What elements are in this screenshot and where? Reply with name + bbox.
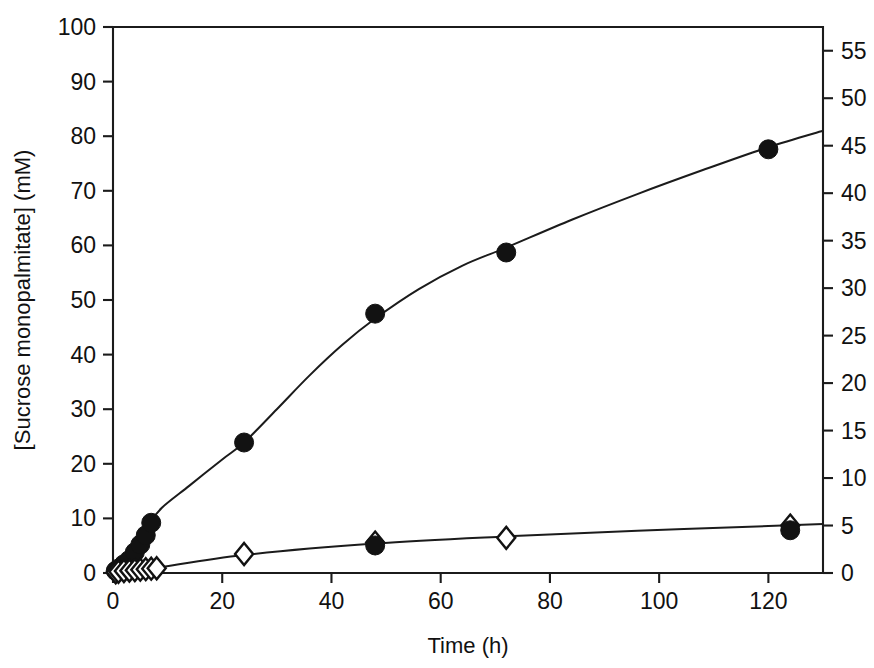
- x-axis-tick-label: 40: [319, 588, 345, 614]
- y-axis-tick-label-right: 45: [841, 133, 867, 159]
- y-axis-tick-label-left: 30: [70, 396, 96, 422]
- y-axis-tick-label-left: 100: [58, 14, 96, 40]
- y-axis-tick-label-right: 55: [841, 38, 867, 64]
- y-axis-tick-label-right: 50: [841, 85, 867, 111]
- y-axis-tick-label-right: 15: [841, 418, 867, 444]
- y-axis-tick-label-right: 30: [841, 275, 867, 301]
- data-point-filled-circle: [781, 521, 800, 540]
- x-axis-tick-label: 20: [209, 588, 235, 614]
- x-axis-title: Time (h): [427, 633, 508, 658]
- data-point-filled-circle: [235, 433, 254, 452]
- y-axis-title: [Sucrose monopalmitate] (mM): [10, 150, 35, 451]
- x-axis-tick-label: 120: [749, 588, 787, 614]
- scatter-chart: 0102030405060708090100051015202530354045…: [0, 0, 874, 668]
- y-axis-tick-label-left: 80: [70, 123, 96, 149]
- y-axis-tick-label-right: 25: [841, 323, 867, 349]
- data-point-filled-circle: [759, 140, 778, 159]
- y-axis-tick-label-left: 40: [70, 342, 96, 368]
- y-axis-tick-label-right: 10: [841, 465, 867, 491]
- y-axis-tick-label-left: 50: [70, 287, 96, 313]
- x-axis-tick-label: 80: [537, 588, 563, 614]
- y-axis-tick-label-right: 40: [841, 180, 867, 206]
- y-axis-tick-label-left: 60: [70, 232, 96, 258]
- y-axis-tick-label-left: 70: [70, 178, 96, 204]
- y-axis-tick-label-left: 20: [70, 451, 96, 477]
- x-axis-tick-label: 0: [107, 588, 120, 614]
- figure-container: 0102030405060708090100051015202530354045…: [0, 0, 874, 668]
- fit-curve: [124, 524, 823, 572]
- y-axis-tick-label-left: 0: [83, 560, 96, 586]
- data-point-filled-circle: [497, 243, 516, 262]
- data-point-open-diamond: [497, 527, 515, 549]
- data-point-filled-circle: [142, 513, 161, 532]
- data-point-filled-circle: [366, 536, 385, 555]
- data-point-open-diamond: [235, 543, 253, 565]
- y-axis-tick-label-right: 5: [841, 513, 854, 539]
- y-axis-tick-label-left: 90: [70, 69, 96, 95]
- data-point-filled-circle: [366, 304, 385, 323]
- x-axis-tick-label: 60: [428, 588, 454, 614]
- y-axis-tick-label-right: 35: [841, 228, 867, 254]
- plot-frame: [113, 27, 823, 573]
- x-axis-tick-label: 100: [640, 588, 678, 614]
- y-axis-tick-label-right: 20: [841, 370, 867, 396]
- y-axis-tick-label-left: 10: [70, 505, 96, 531]
- fit-curve: [124, 131, 823, 571]
- y-axis-tick-label-right: 0: [841, 560, 854, 586]
